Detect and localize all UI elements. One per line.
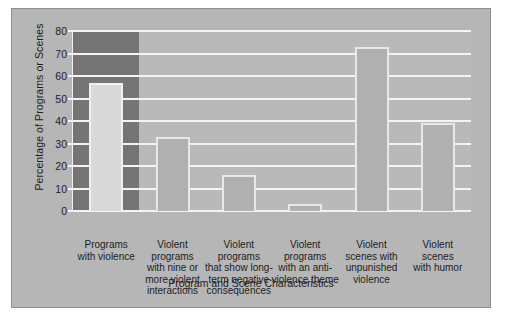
y-axis-tick-mark: [68, 143, 73, 145]
y-axis-tick-label: 10: [41, 183, 67, 195]
y-axis-tick-mark: [68, 53, 73, 55]
y-axis-tick-mark: [68, 165, 73, 167]
bar: [421, 123, 455, 211]
y-axis-tick-label: 70: [41, 48, 67, 60]
bar: [156, 137, 190, 211]
x-axis-label-line: consequences: [200, 285, 278, 297]
bar: [222, 175, 256, 211]
x-axis-label-line: Violent: [399, 239, 477, 251]
chart-figure: Percentage of Programs or Scenes 0102030…: [11, 8, 491, 308]
gridline: [73, 188, 471, 190]
gridline: [73, 210, 471, 212]
y-axis-tick-label: 40: [41, 115, 67, 127]
gridline: [73, 75, 471, 77]
y-axis-tick-label: 30: [41, 138, 67, 150]
x-axis-category-label: Violentsceneswith humor: [399, 239, 477, 274]
gridline: [73, 98, 471, 100]
bar: [89, 83, 123, 211]
y-axis-tick-mark: [68, 98, 73, 100]
x-axis-label-line: violence: [332, 274, 410, 286]
y-axis-tick-mark: [68, 75, 73, 77]
y-axis-tick-label: 0: [41, 205, 67, 217]
y-axis-tick-mark: [68, 188, 73, 190]
y-axis-tick-label: 50: [41, 93, 67, 105]
gridline: [73, 30, 471, 32]
gridline: [73, 53, 471, 55]
gridline: [73, 165, 471, 167]
y-axis-tick-mark: [68, 30, 73, 32]
y-axis-tick-label: 20: [41, 160, 67, 172]
y-axis-tick-label: 60: [41, 70, 67, 82]
x-axis-label-line: scenes: [399, 251, 477, 263]
x-axis-label-line: with humor: [399, 262, 477, 274]
y-axis-tick-label: 80: [41, 25, 67, 37]
bar: [355, 47, 389, 211]
bar: [288, 204, 322, 211]
y-axis-tick-mark: [68, 210, 73, 212]
gridline: [73, 120, 471, 122]
gridline: [73, 143, 471, 145]
plot-area: 01020304050607080 Programswith violenceV…: [72, 31, 471, 212]
y-axis-tick-mark: [68, 120, 73, 122]
